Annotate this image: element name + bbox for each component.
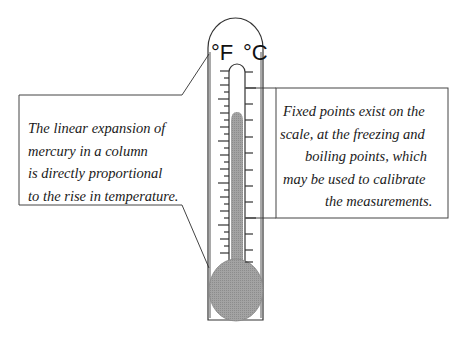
mercury-bulb bbox=[209, 259, 263, 321]
right-callout-line: Fixed points exist on the bbox=[283, 100, 433, 123]
fahrenheit-label: °F bbox=[211, 40, 233, 65]
left-callout-line: to the rise in temperature. bbox=[28, 185, 178, 208]
celsius-label: °C bbox=[243, 40, 268, 65]
fahrenheit-scale-ticks bbox=[218, 71, 229, 253]
right-callout-line: the measurements. bbox=[283, 190, 433, 213]
left-callout-text: The linear expansion of mercury in a col… bbox=[28, 117, 178, 207]
right-callout-line: boiling points, which bbox=[283, 145, 433, 168]
right-callout-text: Fixed points exist on the scale, at the … bbox=[283, 100, 433, 213]
left-callout-line: The linear expansion of bbox=[28, 117, 178, 140]
right-callout-line: may be used to calibrate bbox=[283, 168, 433, 191]
left-callout-line: mercury in a column bbox=[28, 140, 178, 163]
mercury-column bbox=[231, 112, 243, 275]
right-callout-line: scale, at the freezing and bbox=[280, 123, 433, 146]
left-callout-line: is directly proportional bbox=[28, 162, 178, 185]
celsius-scale-ticks bbox=[245, 72, 256, 262]
